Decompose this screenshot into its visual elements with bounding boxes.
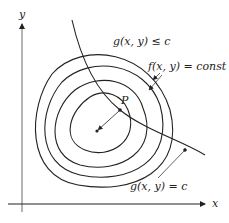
level-curves xyxy=(35,55,172,188)
contour-3 xyxy=(45,66,163,177)
x-axis-label: x xyxy=(212,197,219,210)
y-axis-label: y xyxy=(18,8,26,21)
point-p-label: P xyxy=(120,94,129,107)
constraint-curve-label: g(x, y) = c xyxy=(130,180,187,193)
point-p xyxy=(118,108,122,112)
gradient-arrow xyxy=(98,111,119,130)
lagrange-diagram: P y x g(x, y) ≤ c f(x, y) = const g(x, y… xyxy=(0,0,229,223)
level-curves-label: f(x, y) = const xyxy=(147,60,227,73)
feasible-region-label: g(x, y) ≤ c xyxy=(113,35,170,48)
